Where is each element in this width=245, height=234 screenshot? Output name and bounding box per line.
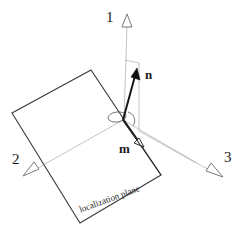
in-plane-vector-label: m bbox=[119, 142, 130, 155]
axis-2-label: 2 bbox=[12, 152, 20, 167]
angle-markers bbox=[107, 111, 134, 126]
axis-1-arrowhead bbox=[122, 14, 132, 27]
projection-foot-line bbox=[139, 131, 196, 163]
axis-2-arrowhead bbox=[23, 162, 39, 176]
axis-2-line bbox=[38, 120, 123, 168]
projection-top-line bbox=[125, 60, 139, 63]
axis-3-line bbox=[123, 120, 209, 170]
axis-3-arrowhead bbox=[206, 163, 223, 177]
figure-canvas: 1 2 3 n m localization plane bbox=[0, 0, 245, 234]
normal-vector-label: n bbox=[145, 68, 152, 81]
axis-3-label: 3 bbox=[224, 150, 232, 165]
axis-1-label: 1 bbox=[106, 10, 114, 25]
